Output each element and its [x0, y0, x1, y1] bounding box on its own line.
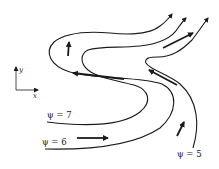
arrow-up-left-icon — [149, 70, 177, 85]
arrow-left-icon — [73, 73, 124, 79]
streamline-psi6 — [45, 14, 174, 149]
label-psi6: ψ = 6 — [42, 137, 67, 147]
streamline-psi5 — [146, 18, 208, 148]
streamline-diagram: y x ψ = 7 ψ = 6 ψ = 5 — [0, 0, 219, 169]
arrow-up-right-icon — [177, 122, 184, 136]
label-psi7: ψ = 7 — [47, 110, 72, 120]
label-psi5: ψ = 5 — [177, 149, 202, 159]
flow-arrows — [68, 33, 193, 138]
y-axis-label: y — [18, 66, 24, 74]
arrow-up-icon — [68, 42, 69, 56]
coordinate-axes: y x — [16, 66, 38, 100]
x-axis-label: x — [33, 92, 37, 100]
arrow-up-right-icon — [163, 33, 193, 48]
